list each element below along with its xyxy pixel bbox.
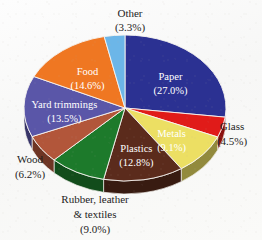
label-other-name: Other	[117, 7, 142, 19]
label-wood: Wood (6.2%)	[15, 153, 46, 181]
slice-value-yard-trimmings: (13.5%)	[47, 113, 82, 125]
slice-value-food: (14.6%)	[70, 80, 105, 92]
label-glass-value: (4.5%)	[217, 135, 248, 148]
label-rubber-leather-textiles: Rubber, leather & textiles (9.0%)	[61, 193, 129, 236]
slice-label-plastics: Plastics	[120, 143, 152, 154]
label-rubber-line1: Rubber, leather	[61, 193, 129, 205]
slice-value-paper: (27.0%)	[153, 85, 188, 97]
label-rubber-line2: & textiles	[73, 208, 116, 220]
slice-label-paper: Paper	[158, 71, 182, 82]
slice-label-metals: Metals	[157, 128, 186, 139]
pie-chart: Paper(27.0%)Metals(9.1%)Plastics(12.8%)Y…	[0, 0, 262, 240]
slice-label-food: Food	[77, 66, 99, 77]
slice-label-yard-trimmings: Yard trimmings	[32, 99, 98, 110]
label-wood-value: (6.2%)	[15, 168, 46, 181]
label-rubber-value: (9.0%)	[80, 223, 111, 236]
label-other-value: (3.3%)	[115, 21, 146, 34]
label-wood-name: Wood	[17, 153, 44, 165]
slice-value-plastics: (12.8%)	[119, 157, 154, 169]
chart-canvas: Paper(27.0%)Metals(9.1%)Plastics(12.8%)Y…	[0, 0, 262, 240]
slice-value-metals: (9.1%)	[157, 142, 186, 154]
label-other: Other (3.3%)	[115, 7, 146, 34]
label-glass-name: Glass	[220, 120, 244, 132]
